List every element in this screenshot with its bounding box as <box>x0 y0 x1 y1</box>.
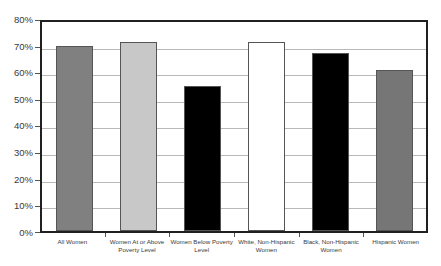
y-tick-label: 80% <box>14 15 33 25</box>
y-tick-label: 50% <box>14 95 33 105</box>
bar-slot <box>106 22 170 231</box>
y-axis-labels: 80% 70% 60% 50% 40% 30% 20% 10% 0% <box>0 0 37 266</box>
x-tick-mark <box>105 233 106 237</box>
y-tick-label: 40% <box>14 122 33 132</box>
x-category-label-all-women: All Women <box>40 238 105 266</box>
bar-slot <box>362 22 426 231</box>
bar-black-non-hispanic-women[interactable] <box>312 53 349 231</box>
bar-slot <box>170 22 234 231</box>
x-axis-tick-marks <box>40 233 428 237</box>
x-category-label-women-at-or-above-poverty-level: Women At or Above Poverty Level <box>105 238 170 266</box>
x-category-label-white-non-hispanic-women: White, Non-Hispanic Women <box>234 238 299 266</box>
x-category-label-hispanic-women: Hispanic Women <box>363 238 428 266</box>
y-tick-label: 10% <box>14 201 33 211</box>
x-category-label-women-below-poverty-level: Women Below Poverty Level <box>169 238 234 266</box>
x-category-label-black-non-hispanic-women: Black, Non-Hispanic Women <box>299 238 364 266</box>
bar-chart: 80% 70% 60% 50% 40% 30% 20% 10% 0% <box>0 0 441 266</box>
bar-women-below-poverty-level[interactable] <box>184 86 221 231</box>
y-tick-label: 60% <box>14 68 33 78</box>
bars-layer <box>42 22 426 231</box>
bar-slot <box>234 22 298 231</box>
x-tick-mark <box>234 233 235 237</box>
x-tick-mark <box>169 233 170 237</box>
y-tick-label: 0% <box>19 228 33 238</box>
bar-hispanic-women[interactable] <box>376 70 413 231</box>
plot-area <box>40 20 428 233</box>
bar-all-women[interactable] <box>56 46 93 231</box>
x-tick-mark <box>299 233 300 237</box>
bar-women-at-or-above-poverty-level[interactable] <box>120 42 157 231</box>
y-tick-label: 20% <box>14 175 33 185</box>
x-tick-mark <box>363 233 364 237</box>
bar-slot <box>42 22 106 231</box>
y-tick-label: 30% <box>14 148 33 158</box>
x-axis-labels: All Women Women At or Above Poverty Leve… <box>40 238 428 266</box>
bar-slot <box>298 22 362 231</box>
y-tick-label: 70% <box>14 42 33 52</box>
bar-white-non-hispanic-women[interactable] <box>248 42 285 231</box>
